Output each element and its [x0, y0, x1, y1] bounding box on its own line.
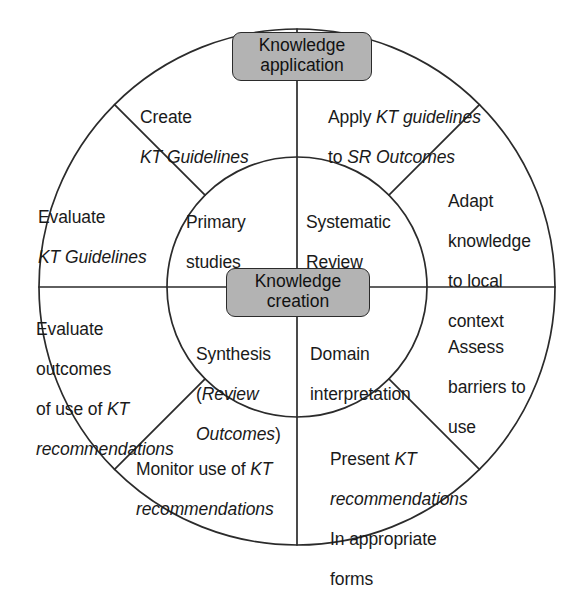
quadrant-synthesis-line3: Outcomes)	[196, 425, 306, 445]
badge-knowledge-application-line2: application	[245, 56, 359, 76]
sector-adapt-line1: Adapt	[448, 192, 568, 212]
sector-create-line2: KT Guidelines	[140, 148, 285, 168]
quadrant-label-synthesis: Synthesis (Review Outcomes)	[196, 325, 306, 465]
sector-evaluate-outcomes-line2: outcomes	[36, 360, 196, 380]
sector-evaluate-outcomes-line1: Evaluate	[36, 320, 196, 340]
quadrant-primary-line2: studies	[186, 253, 296, 273]
sector-present-line1: Present KT	[330, 450, 490, 470]
sector-label-present-kt: Present KT recommendations In appropriat…	[330, 430, 490, 589]
quadrant-synthesis-close-paren: )	[275, 424, 281, 444]
sector-create-line1: Create	[140, 108, 285, 128]
quadrant-synthesis-line2: (Review	[196, 385, 306, 405]
sector-monitor-line2: recommendations	[136, 500, 301, 520]
quadrant-systematic-line1: Systematic	[306, 213, 426, 233]
badge-knowledge-application-line1: Knowledge	[245, 36, 359, 56]
sector-apply-line1: Apply KT guidelines	[328, 108, 488, 128]
sector-present-line3: In appropriate	[330, 530, 490, 550]
sector-label-create-kt-guidelines: Create KT Guidelines	[140, 88, 285, 188]
badge-knowledge-creation-line2: creation	[239, 292, 357, 312]
sector-apply-line2-italic: SR Outcomes	[347, 147, 455, 167]
sector-present-line1-regular: Present	[330, 449, 394, 469]
sector-present-line1-italic: KT	[394, 449, 416, 469]
sector-evaluate-outcomes-line3-italic: KT	[107, 399, 129, 419]
quadrant-label-domain-interpretation: Domain interpretation	[310, 325, 435, 425]
sector-present-line4: forms	[330, 570, 490, 589]
sector-evaluate-kt-line2: KT Guidelines	[38, 248, 178, 268]
quadrant-systematic-line2: Review	[306, 253, 426, 273]
quadrant-synthesis-line1: Synthesis	[196, 345, 306, 365]
sector-assess-line2: barriers to	[448, 378, 563, 398]
badge-knowledge-application: Knowledge application	[232, 32, 372, 81]
quadrant-synthesis-outcomes: Outcomes	[196, 424, 275, 444]
quadrant-domain-line1: Domain	[310, 345, 435, 365]
sector-adapt-line3: to local	[448, 272, 568, 292]
sector-evaluate-kt-line1: Evaluate	[38, 208, 178, 228]
sector-apply-line1-italic: KT guidelines	[376, 107, 481, 127]
sector-apply-line1-regular: Apply	[328, 107, 376, 127]
quadrant-synthesis-review: Review	[202, 384, 259, 404]
quadrant-label-primary-studies: Primary studies	[186, 193, 296, 293]
sector-adapt-line2: knowledge	[448, 232, 568, 252]
quadrant-domain-line2: interpretation	[310, 385, 435, 405]
quadrant-primary-line1: Primary	[186, 213, 296, 233]
sector-present-line2: recommendations	[330, 490, 490, 510]
sector-apply-line2-regular: to	[328, 147, 347, 167]
sector-label-evaluate-kt-guidelines: Evaluate KT Guidelines	[38, 188, 178, 288]
sector-evaluate-outcomes-line3-regular: of use of	[36, 399, 107, 419]
sector-evaluate-outcomes-line3: of use of KT	[36, 400, 196, 420]
sector-apply-line2: to SR Outcomes	[328, 148, 488, 168]
sector-assess-line1: Assess	[448, 338, 563, 358]
quadrant-label-systematic-review: Systematic Review	[306, 193, 426, 293]
